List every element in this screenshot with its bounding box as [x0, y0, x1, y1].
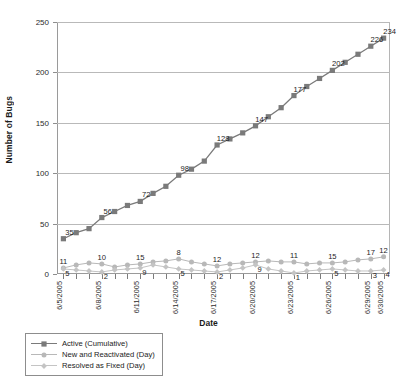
x-tick-mark [191, 274, 192, 279]
data-point-marker [41, 341, 46, 346]
x-axis-title: Date [0, 318, 417, 328]
x-tick-label: 6/11/2005 [132, 281, 141, 313]
point-value-label: 15 [136, 253, 144, 262]
chart-legend: Active (Cumulative)New and Reactivated (… [25, 333, 163, 376]
plot-area: 050100150200250 6/5/20056/8/20056/11/200… [57, 22, 390, 274]
point-value-label: 1 [296, 273, 300, 282]
data-point-marker [330, 68, 335, 73]
legend-item-1[interactable]: New and Reactivated (Day) [31, 349, 155, 360]
data-point-marker [291, 259, 296, 264]
data-point-marker [355, 268, 361, 274]
x-tick-mark [281, 274, 282, 279]
point-value-label: 2 [104, 272, 108, 281]
x-tick-mark [204, 274, 205, 279]
point-value-label: 56 [104, 207, 112, 216]
x-tick-mark [256, 274, 257, 279]
data-point-marker [86, 268, 92, 274]
legend-marker-icon [31, 360, 57, 371]
legend-label: New and Reactivated (Day) [62, 350, 155, 359]
x-tick-mark [384, 274, 385, 279]
point-value-label: 12 [251, 251, 259, 260]
x-tick-label: 6/23/2005 [285, 281, 294, 314]
point-value-label: 17 [367, 248, 375, 257]
point-value-label: 147 [255, 115, 268, 124]
data-point-marker [189, 267, 195, 273]
x-tick-label: 6/14/2005 [170, 281, 179, 314]
data-point-marker [163, 184, 168, 189]
data-point-marker [214, 142, 219, 147]
point-value-label: 234 [383, 27, 396, 36]
legend-item-0[interactable]: Active (Cumulative) [31, 338, 155, 349]
x-tick-mark [76, 274, 77, 279]
data-point-marker [99, 261, 104, 266]
x-tick-label: 6/30/2005 [375, 281, 384, 314]
point-value-label: 15 [328, 252, 336, 261]
point-value-label: 8 [177, 248, 181, 257]
x-tick-mark [307, 274, 308, 279]
data-point-marker [381, 254, 386, 259]
data-point-marker [253, 123, 258, 128]
data-point-marker [355, 52, 360, 57]
data-point-marker [87, 260, 92, 265]
data-point-marker [240, 260, 245, 265]
data-point-marker [202, 159, 207, 164]
data-point-marker [278, 268, 284, 274]
point-value-label: 177 [294, 85, 307, 94]
legend-item-2[interactable]: Resolved as Fixed (Day) [31, 360, 155, 371]
point-value-label: 226 [370, 35, 383, 44]
data-point-marker [304, 261, 309, 266]
data-point-marker [291, 93, 296, 98]
data-point-marker [189, 259, 194, 264]
data-point-marker [42, 352, 47, 357]
data-point-marker [215, 263, 220, 268]
x-tick-mark [371, 274, 372, 279]
data-point-marker [342, 267, 348, 273]
data-point-marker [355, 257, 360, 262]
data-point-marker [317, 260, 322, 265]
point-value-label: 98 [180, 164, 188, 173]
point-value-label: 10 [98, 253, 106, 262]
point-value-label: 11 [59, 257, 67, 266]
x-tick-mark [63, 274, 64, 279]
point-value-label: 9 [257, 265, 261, 274]
data-point-marker [41, 363, 47, 369]
point-value-label: 4 [385, 270, 389, 279]
x-tick-mark [332, 274, 333, 279]
data-point-marker [61, 236, 66, 241]
x-tick-label: 6/26/2005 [324, 281, 333, 314]
legend-label: Active (Cumulative) [62, 339, 128, 348]
data-point-marker [74, 262, 79, 267]
x-tick-mark [166, 274, 167, 279]
data-point-marker [368, 44, 373, 49]
data-point-marker [73, 267, 79, 273]
data-point-marker [201, 268, 207, 274]
y-tick-label: 0 [19, 270, 49, 279]
y-tick-mark [53, 274, 57, 275]
data-point-marker [189, 167, 194, 172]
point-value-label: 35 [65, 228, 73, 237]
point-value-label: 2 [219, 272, 223, 281]
data-point-marker [74, 230, 79, 235]
x-tick-label: 6/29/2005 [362, 281, 371, 314]
bug-trend-chart: Number of Bugs Date 050100150200250 6/5/… [0, 0, 417, 383]
data-point-marker [279, 105, 284, 110]
data-point-marker [86, 226, 91, 231]
y-tick-label: 200 [19, 68, 49, 77]
point-value-label: 5 [334, 269, 338, 278]
point-value-label: 128 [217, 134, 230, 143]
y-tick-label: 100 [19, 169, 49, 178]
x-tick-mark [217, 274, 218, 279]
point-value-label: 5 [181, 269, 185, 278]
x-tick-mark [243, 274, 244, 279]
data-point-marker [176, 256, 181, 261]
x-tick-mark [179, 274, 180, 279]
y-tick-label: 250 [19, 18, 49, 27]
data-point-marker [112, 209, 117, 214]
x-tick-mark [320, 274, 321, 279]
point-value-label: 3 [373, 271, 377, 280]
data-point-marker [330, 260, 335, 265]
x-tick-label: 6/17/2005 [209, 281, 218, 314]
x-tick-mark [345, 274, 346, 279]
data-point-marker [150, 191, 155, 196]
x-tick-mark [268, 274, 269, 279]
